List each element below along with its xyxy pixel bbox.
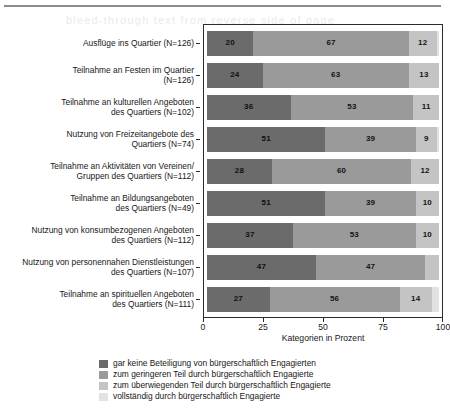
bar-segment: [437, 127, 439, 152]
legend-label: zum überwiegenden Teil durch bürgerschaf…: [113, 380, 331, 391]
category-label-line: Teilnahme an kulturellen Angeboten: [0, 97, 194, 108]
bar-segment-value: 11: [422, 103, 431, 111]
category-tick: [196, 171, 200, 172]
legend-swatch: [99, 360, 108, 368]
legend-swatch: [99, 371, 108, 379]
legend-swatch: [99, 382, 108, 390]
bar-segment: 63: [263, 63, 409, 88]
bar-segment: 9: [416, 127, 437, 152]
legend-item: zum überwiegenden Teil durch bürgerschaf…: [99, 380, 429, 391]
bar-row: 275614: [207, 287, 439, 312]
category-tick: [196, 43, 200, 44]
x-axis-tick-label: 25: [258, 322, 268, 332]
bar-segment: 14: [400, 287, 432, 312]
bar-segment: 51: [207, 127, 325, 152]
x-axis-title: Kategorien in Prozent: [203, 333, 443, 343]
stacked-bar: 246313: [207, 63, 439, 88]
category-label-line: des Quartiers (N=112): [0, 235, 194, 246]
plot-area: 2067122463133653115139928601251391037531…: [207, 27, 439, 315]
category-label-line: (N=126): [0, 75, 194, 86]
bar-segment: 24: [207, 63, 263, 88]
category-tick: [196, 107, 200, 108]
bar-segment: 20: [207, 31, 253, 56]
bar-row: 246313: [207, 63, 439, 88]
category-label-line: Teilnahme an Aktivitäten von Vereinen/: [0, 161, 194, 172]
bar-segment: 37: [207, 223, 293, 248]
bar-segment: 10: [416, 223, 439, 248]
bar-segment-value: 24: [230, 71, 239, 79]
bar-segment-value: 53: [347, 103, 356, 111]
bar-segment: 36: [207, 95, 291, 120]
bar-segment-value: 47: [366, 263, 375, 271]
category-label-line: Teilnahme an spirituellen Angeboten: [0, 289, 194, 300]
bar-segment-value: 28: [235, 167, 244, 175]
category-label: Teilnahme an Festen im Quartier(N=126): [0, 65, 194, 86]
legend-label: vollständig durch bürgerschaftlich Engag…: [113, 391, 280, 402]
category-label-line: Teilnahme an Festen im Quartier: [0, 65, 194, 76]
x-axis-tick-label: 75: [378, 322, 388, 332]
x-axis-tick-label: 100: [436, 322, 450, 332]
stacked-bar: 375310: [207, 223, 439, 248]
category-label-line: des Quartiers (N=49): [0, 203, 194, 214]
category-label-line: des Quartiers (N=107): [0, 267, 194, 278]
bar-row: 375310: [207, 223, 439, 248]
category-label: Teilnahme an kulturellen Angebotendes Qu…: [0, 97, 194, 118]
bar-segment: 27: [207, 287, 270, 312]
bar-segment-value: 14: [411, 295, 420, 303]
page-top-rule: [4, 5, 441, 7]
bar-segment-value: 37: [245, 231, 254, 239]
bar-segment: 47: [207, 255, 316, 280]
bar-row: 365311: [207, 95, 439, 120]
bar-segment: [432, 287, 439, 312]
category-axis-labels: Ausflüge ins Quartier (N=126)Teilnahme a…: [0, 27, 200, 315]
chart-legend: gar keine Beteiligung von bürgerschaftli…: [99, 358, 429, 402]
category-label: Teilnahme an Aktivitäten von Vereinen/Gr…: [0, 161, 194, 182]
legend-item: vollständig durch bürgerschaftlich Engag…: [99, 391, 429, 402]
legend-item: zum geringeren Teil durch bürgerschaftli…: [99, 369, 429, 380]
category-label-line: Quartiers (N=74): [0, 139, 194, 150]
category-label: Nutzung von Freizeitangebote desQuartier…: [0, 129, 194, 150]
bar-segment: 51: [207, 191, 325, 216]
bar-segment: 12: [409, 31, 437, 56]
bar-row: 4747: [207, 255, 439, 280]
stacked-bar-rows: 2067122463133653115139928601251391037531…: [207, 27, 439, 315]
category-tick: [196, 203, 200, 204]
stacked-bar: 275614: [207, 287, 439, 312]
bar-segment-value: 53: [350, 231, 359, 239]
category-label: Nutzung von konsumbezogenen Angebotendes…: [0, 225, 194, 246]
bar-segment-value: 27: [234, 295, 243, 303]
category-label-line: Gruppen des Quartiers (N=112): [0, 171, 194, 182]
category-label-line: Nutzung von personennahen Dienstleistung…: [0, 257, 194, 268]
bar-segment-value: 39: [366, 135, 375, 143]
bar-segment-value: 51: [262, 199, 271, 207]
legend-label: gar keine Beteiligung von bürgerschaftli…: [113, 358, 316, 369]
bar-segment: 53: [293, 223, 416, 248]
bar-segment: 13: [409, 63, 439, 88]
bar-segment-value: 60: [337, 167, 346, 175]
category-label: Ausflüge ins Quartier (N=126): [0, 38, 194, 49]
category-label-line: Nutzung von Freizeitangebote des: [0, 129, 194, 140]
bar-segment-value: 20: [226, 39, 235, 47]
bar-row: 206712: [207, 31, 439, 56]
bar-segment-value: 56: [330, 295, 339, 303]
bar-segment-value: 9: [424, 135, 429, 143]
bar-segment-value: 51: [262, 135, 271, 143]
category-label-line: Ausflüge ins Quartier (N=126): [0, 38, 194, 49]
bar-row: 286012: [207, 159, 439, 184]
bar-segment: 56: [270, 287, 400, 312]
bar-segment-value: 39: [366, 199, 375, 207]
category-tick: [196, 75, 200, 76]
stacked-bar: 513910: [207, 191, 439, 216]
category-label-line: Nutzung von konsumbezogenen Angeboten: [0, 225, 194, 236]
legend-label: zum geringeren Teil durch bürgerschaftli…: [113, 369, 314, 380]
bar-segment: 12: [411, 159, 439, 184]
bar-segment: 53: [291, 95, 414, 120]
legend-swatch: [99, 393, 108, 401]
stacked-bar: 4747: [207, 255, 439, 280]
bar-segment-value: 10: [423, 231, 432, 239]
category-label: Teilnahme an spirituellen Angebotendes Q…: [0, 289, 194, 310]
bar-segment-value: 36: [244, 103, 253, 111]
category-tick: [196, 139, 200, 140]
category-tick: [196, 267, 200, 268]
